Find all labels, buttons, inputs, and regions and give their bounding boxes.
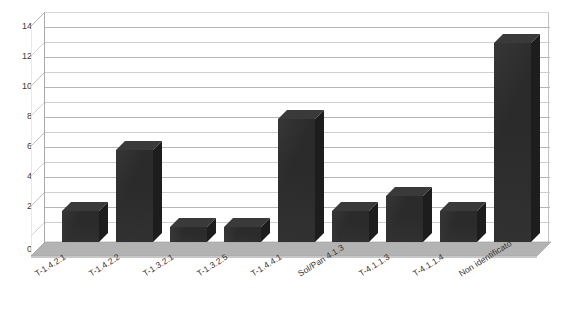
x-tick-label-6: T-4.1.1.3	[357, 252, 392, 279]
x-tick-label-0: T-1.4.2.1	[33, 252, 68, 279]
bar-top-face	[332, 202, 369, 211]
bar-top-face	[440, 202, 477, 211]
bar-front	[494, 43, 531, 242]
x-tick-label-2: T-1.3.2.1	[141, 252, 176, 279]
bar-side-face	[423, 196, 432, 242]
bar-Non-identificato[interactable]	[494, 43, 531, 242]
bar-T-4-1-1-4[interactable]	[440, 211, 477, 242]
bar-side-face	[153, 150, 162, 242]
bar-side-face	[207, 227, 216, 242]
bar-side-face	[315, 119, 324, 242]
bar-front	[386, 196, 423, 242]
bar-top-face	[62, 202, 99, 211]
bar-front	[62, 211, 99, 242]
bar-side-face	[477, 211, 486, 242]
bar-top-face	[170, 218, 207, 227]
bar-T-1-4-2-1[interactable]	[62, 211, 99, 242]
x-axis: T-1.4.2.1 T-1.4.2.2 T-1.3.2.1 T-1.3.2.5 …	[0, 255, 565, 322]
cropped-title-strip	[0, 0, 565, 8]
x-tick-label-4: T-1.4.4.1	[249, 252, 284, 279]
bar-side-face	[369, 211, 378, 242]
plot-area	[44, 12, 549, 255]
axis-depth-wall	[31, 12, 45, 255]
bar-front	[440, 211, 477, 242]
bar-side-face	[99, 211, 108, 242]
bar-front	[278, 119, 315, 242]
bar-side-face	[261, 227, 270, 242]
bar-T-1-3-2-5[interactable]	[224, 227, 261, 242]
bar-top-face	[494, 34, 531, 43]
bar-top-face	[278, 110, 315, 119]
bar-front	[116, 150, 153, 242]
bars-layer	[44, 12, 549, 255]
bar-T-4-1-1-3[interactable]	[386, 196, 423, 242]
bar-T-1-4-2-2[interactable]	[116, 150, 153, 242]
bar-chart: 14 12 10 8 6 4 2 0	[0, 0, 565, 322]
x-tick-label-3: T-1.3.2.5	[195, 252, 230, 279]
bar-top-face	[116, 141, 153, 150]
bar-Sol-Pan-4-1-3[interactable]	[332, 211, 369, 242]
bar-front	[224, 227, 261, 242]
bar-T-1-4-4-1[interactable]	[278, 119, 315, 242]
bar-front	[170, 227, 207, 242]
bar-T-1-3-2-1[interactable]	[170, 227, 207, 242]
x-tick-label-7: T-4.1.1.4	[411, 252, 446, 279]
bar-side-face	[531, 43, 540, 242]
bar-front	[332, 211, 369, 242]
bar-top-face	[224, 218, 261, 227]
bar-top-face	[386, 187, 423, 196]
x-tick-label-1: T-1.4.2.2	[87, 252, 122, 279]
